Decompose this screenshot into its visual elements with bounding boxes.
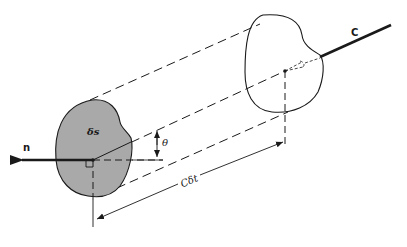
- center-point: [91, 158, 95, 162]
- wave-direction-label: C: [351, 27, 358, 38]
- distance-dimension-right: [200, 142, 283, 175]
- distance-label: Cδt: [179, 172, 200, 189]
- angle-label: θ: [162, 137, 168, 148]
- normal-vector-label: n: [23, 142, 30, 153]
- diagram-canvas: C n δs θ Cδt: [0, 0, 407, 247]
- projected-ray-cone: [285, 58, 320, 71]
- top-generator-line: [90, 24, 260, 100]
- projected-area-outline: [245, 15, 323, 113]
- shaded-area-element: [56, 100, 132, 197]
- area-element-label: δs: [86, 126, 100, 137]
